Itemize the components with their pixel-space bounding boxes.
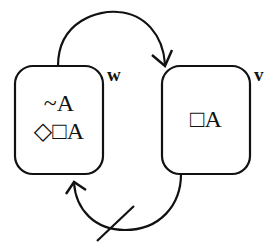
formula-not-a: ~A xyxy=(15,88,103,118)
world-label-v: v xyxy=(254,64,264,86)
relation-arrow-v-to-w xyxy=(74,174,181,230)
world-label-w: w xyxy=(107,64,121,86)
arrowhead-icon xyxy=(152,50,172,66)
formula-possibly-necessarily-a: ◇□A xyxy=(15,116,103,146)
negation-slash xyxy=(97,206,134,241)
relation-arrow-w-to-v xyxy=(58,12,165,66)
formula-necessarily-a: □A xyxy=(162,104,250,134)
